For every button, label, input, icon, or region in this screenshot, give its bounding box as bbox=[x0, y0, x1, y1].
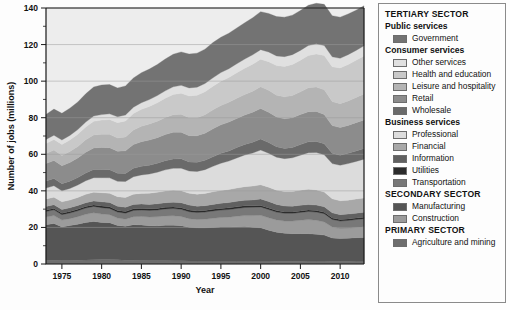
legend-swatch-icon bbox=[393, 83, 407, 91]
xtick-label-2000: 2000 bbox=[251, 271, 270, 281]
ytick-label-40: 40 bbox=[29, 186, 39, 196]
legend-item-financial[interactable]: Financial bbox=[385, 141, 501, 152]
legend-item-label: Retail bbox=[412, 93, 433, 104]
ytick-label-140: 140 bbox=[24, 3, 38, 13]
xtick-label-1985: 1985 bbox=[132, 271, 151, 281]
legend-item-utilities[interactable]: Utilities bbox=[385, 165, 501, 176]
x-axis-title: Year bbox=[195, 285, 215, 295]
xtick-label-1995: 1995 bbox=[211, 271, 230, 281]
legend-item-label: Transportation bbox=[412, 177, 466, 188]
legend-heading-consumer-services: Consumer services bbox=[385, 45, 501, 56]
legend-item-label: Other services bbox=[412, 57, 466, 68]
legend-item-wholesale[interactable]: Wholesale bbox=[385, 105, 501, 116]
xtick-label-1980: 1980 bbox=[92, 271, 111, 281]
legend-swatch-icon bbox=[393, 59, 407, 67]
legend-item-label: Utilities bbox=[412, 165, 439, 176]
legend-item-label: Professional bbox=[412, 129, 458, 140]
legend-swatch-icon bbox=[393, 167, 407, 175]
legend-swatch-icon bbox=[393, 239, 407, 247]
legend-heading-business-services: Business services bbox=[385, 117, 501, 128]
xtick-label-1975: 1975 bbox=[52, 271, 71, 281]
legend-swatch-icon bbox=[393, 107, 407, 115]
legend-item-label: Information bbox=[412, 153, 454, 164]
xtick-label-2005: 2005 bbox=[291, 271, 310, 281]
legend-swatch-icon bbox=[393, 203, 407, 211]
legend-item-agriculture-and-mining[interactable]: Agriculture and mining bbox=[385, 237, 501, 248]
legend-heading-public-services: Public services bbox=[385, 21, 501, 32]
legend-item-label: Government bbox=[412, 33, 458, 44]
legend-item-information[interactable]: Information bbox=[385, 153, 501, 164]
chart-svg: 0204060801001201401975198019851990199520… bbox=[0, 0, 372, 310]
stacked-area-chart: 0204060801001201401975198019851990199520… bbox=[0, 0, 372, 310]
legend-item-health-and-education[interactable]: Health and education bbox=[385, 69, 501, 80]
legend-item-other-services[interactable]: Other services bbox=[385, 57, 501, 68]
y-axis-title: Number of jobs (millions) bbox=[6, 82, 16, 191]
legend-item-leisure-and-hospitality[interactable]: Leisure and hospitality bbox=[385, 81, 501, 92]
legend-swatch-icon bbox=[393, 215, 407, 223]
legend-heading-tertiary-sector: TERTIARY SECTOR bbox=[385, 9, 501, 20]
ytick-label-60: 60 bbox=[29, 149, 39, 159]
legend-item-construction[interactable]: Construction bbox=[385, 213, 501, 224]
legend-item-label: Wholesale bbox=[412, 105, 451, 116]
legend-item-label: Financial bbox=[412, 141, 446, 152]
legend-item-label: Construction bbox=[412, 213, 459, 224]
legend-swatch-icon bbox=[393, 143, 407, 151]
legend-item-label: Leisure and hospitality bbox=[412, 81, 495, 92]
ytick-label-100: 100 bbox=[24, 76, 38, 86]
legend-heading-secondary-sector: SECONDARY SECTOR bbox=[385, 189, 501, 200]
legend-item-manufacturing[interactable]: Manufacturing bbox=[385, 201, 501, 212]
legend-item-professional[interactable]: Professional bbox=[385, 129, 501, 140]
legend-item-transportation[interactable]: Transportation bbox=[385, 177, 501, 188]
chart-legend: TERTIARY SECTORPublic servicesGovernment… bbox=[378, 3, 506, 303]
legend-swatch-icon bbox=[393, 35, 407, 43]
ytick-label-120: 120 bbox=[24, 40, 38, 50]
legend-swatch-icon bbox=[393, 179, 407, 187]
chart-screenshot: 0204060801001201401975198019851990199520… bbox=[0, 0, 510, 310]
legend-swatch-icon bbox=[393, 71, 407, 79]
legend-item-government[interactable]: Government bbox=[385, 33, 501, 44]
legend-item-label: Manufacturing bbox=[412, 201, 465, 212]
legend-heading-primary-sector: PRIMARY SECTOR bbox=[385, 225, 501, 236]
legend-item-label: Agriculture and mining bbox=[412, 237, 495, 248]
legend-swatch-icon bbox=[393, 95, 407, 103]
legend-swatch-icon bbox=[393, 131, 407, 139]
ytick-label-0: 0 bbox=[33, 259, 38, 269]
xtick-label-2010: 2010 bbox=[331, 271, 350, 281]
ytick-label-20: 20 bbox=[29, 222, 39, 232]
xtick-label-1990: 1990 bbox=[172, 271, 191, 281]
legend-item-retail[interactable]: Retail bbox=[385, 93, 501, 104]
legend-item-label: Health and education bbox=[412, 69, 491, 80]
legend-swatch-icon bbox=[393, 155, 407, 163]
ytick-label-80: 80 bbox=[29, 113, 39, 123]
